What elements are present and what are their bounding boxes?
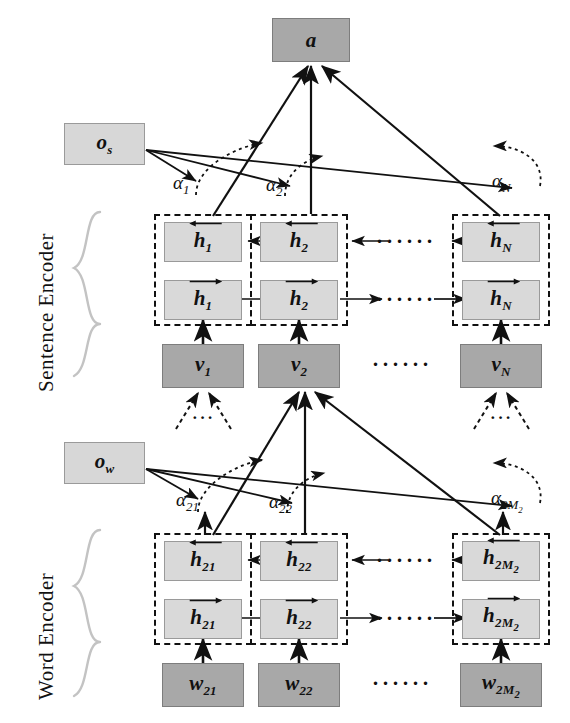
- word-context-label: ow: [95, 449, 115, 477]
- sentence-context-vector-box: os: [64, 123, 145, 165]
- sentence-encoder-label: Sentence Encoder: [34, 233, 59, 392]
- word-backward-state-1: h21: [164, 541, 242, 581]
- sentence-attention-weight-2: α2: [266, 174, 282, 200]
- sentence-backward-label-n: hN: [490, 228, 512, 252]
- sentence-attention-weight-n: αN: [492, 170, 511, 196]
- sentence-input-v2: v2: [258, 344, 340, 388]
- sentence-source-ellipsis-1: ···: [192, 408, 215, 428]
- sentence-backward-state-n: hN: [462, 222, 540, 262]
- sentence-input-vn: vN: [460, 344, 542, 388]
- word-input-label-m: w2M2: [482, 670, 520, 700]
- left-arrow-icon: [487, 536, 521, 545]
- sentence-input-label-1: v1: [195, 352, 211, 380]
- word-backward-label-m: h2M2: [483, 545, 519, 569]
- right-arrow-icon: [487, 594, 521, 603]
- word-backward-state-2: h22: [260, 541, 338, 581]
- word-attention-weight-m: α2M2: [491, 487, 523, 514]
- word-forward-label-1: h21: [190, 605, 215, 629]
- sentence-forward-label-1: h1: [194, 286, 213, 310]
- output-attention-box-a: a: [272, 18, 350, 62]
- left-arrow-icon: [285, 219, 319, 228]
- left-arrow-icon: [189, 538, 223, 547]
- word-forward-state-1: h21: [164, 599, 242, 639]
- word-input-label-1: w21: [189, 671, 217, 699]
- word-backward-state-m: h2M2: [462, 541, 540, 581]
- left-arrow-icon: [189, 219, 223, 228]
- word-backward-ellipsis: ······: [376, 548, 436, 573]
- word-context-vector-box: ow: [64, 442, 145, 484]
- sentence-forward-state-1: h1: [164, 280, 242, 320]
- right-arrow-icon: [189, 277, 223, 286]
- sentence-attention-weight-1: α1: [173, 172, 189, 198]
- sentence-backward-state-1: h1: [164, 222, 242, 262]
- sentence-source-ellipsis-n: ···: [490, 408, 513, 428]
- sentence-input-label-n: vN: [491, 352, 510, 380]
- sentence-input-v1: v1: [162, 344, 244, 388]
- sentence-forward-label-2: h2: [290, 286, 309, 310]
- right-arrow-icon: [487, 277, 521, 286]
- sentence-backward-label-2: h2: [290, 228, 309, 252]
- word-input-ellipsis: ······: [372, 671, 432, 696]
- right-arrow-icon: [189, 596, 223, 605]
- sentence-context-label: os: [97, 130, 113, 158]
- word-input-w22: w22: [258, 663, 340, 707]
- left-arrow-icon: [285, 538, 319, 547]
- word-forward-label-m: h2M2: [483, 603, 519, 627]
- sentence-forward-state-n: hN: [462, 280, 540, 320]
- word-input-w21: w21: [162, 663, 244, 707]
- word-forward-ellipsis: ······: [376, 606, 436, 631]
- output-label: a: [306, 28, 317, 53]
- sentence-input-ellipsis: ······: [372, 352, 432, 377]
- word-attention-weight-1: α21: [176, 489, 199, 515]
- word-input-w2m: w2M2: [460, 663, 542, 707]
- word-forward-state-2: h22: [260, 599, 338, 639]
- word-forward-label-2: h22: [286, 605, 311, 629]
- word-input-label-2: w22: [285, 671, 313, 699]
- word-backward-label-1: h21: [190, 547, 215, 571]
- sentence-forward-ellipsis: ······: [376, 287, 436, 312]
- word-forward-state-m: h2M2: [462, 599, 540, 639]
- right-arrow-icon: [285, 277, 319, 286]
- right-arrow-icon: [285, 596, 319, 605]
- sentence-backward-state-2: h2: [260, 222, 338, 262]
- word-backward-label-2: h22: [286, 547, 311, 571]
- figure-canvas: a os ow h1: [0, 0, 570, 723]
- sentence-forward-state-2: h2: [260, 280, 338, 320]
- sentence-input-label-2: v2: [291, 352, 307, 380]
- sentence-forward-label-n: hN: [490, 286, 512, 310]
- sentence-backward-label-1: h1: [194, 228, 213, 252]
- sentence-backward-ellipsis: ······: [376, 229, 436, 254]
- left-arrow-icon: [487, 219, 521, 228]
- word-encoder-label: Word Encoder: [34, 573, 59, 700]
- word-attention-weight-2: α22: [269, 491, 292, 517]
